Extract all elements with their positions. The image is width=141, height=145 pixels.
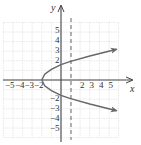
x-tick-label: 5 [109, 80, 114, 90]
y-axis-label: y [50, 2, 56, 13]
x-tick-labels: −5 −4 −3 −2 2 3 4 5 [5, 80, 114, 90]
coordinate-plane: x y −5 −4 −3 −2 2 3 4 5 5 4 3 2 −2 −3 −4… [0, 0, 141, 145]
y-tick-label: 3 [55, 45, 60, 55]
x-axis-label: x [129, 83, 135, 94]
x-tick-label: −5 [5, 80, 15, 90]
y-tick-label: 4 [55, 35, 60, 45]
parabola-upper-branch [42, 49, 117, 80]
y-tick-label: 5 [55, 25, 60, 35]
y-tick-label: −5 [50, 123, 60, 133]
y-tick-label: −3 [50, 103, 60, 113]
y-tick-label: −4 [50, 113, 60, 123]
x-tick-label: 4 [99, 80, 104, 90]
y-tick-label: 2 [55, 55, 60, 65]
x-tick-label: 3 [90, 80, 95, 90]
x-tick-label: 2 [80, 80, 85, 90]
